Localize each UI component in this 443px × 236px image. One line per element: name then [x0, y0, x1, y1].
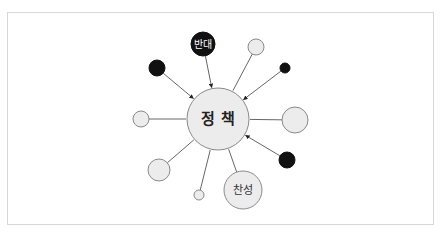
node-support: 찬성: [224, 171, 262, 209]
arrow-oppose: [205, 56, 211, 88]
arrow-black-top-left: [163, 73, 193, 98]
node-circle: [279, 152, 295, 168]
node-circle: [280, 63, 290, 73]
node-black-bottom-right: [279, 152, 295, 168]
node-circle: [148, 159, 170, 181]
node-light-bottom-left: [148, 159, 170, 181]
node-label: 반대: [194, 39, 212, 50]
node-light-small-bottom: [194, 190, 204, 200]
center-label: 정 책: [201, 110, 234, 128]
node-circle: [194, 190, 204, 200]
link-light-top-right: [233, 54, 252, 91]
node-light-left: [133, 111, 149, 127]
center-node-policy: 정 책: [187, 88, 249, 150]
node-label: 찬성: [233, 183, 253, 197]
node-circle: [248, 39, 264, 55]
node-black-small-right: [280, 63, 290, 73]
link-light-small-bottom: [200, 150, 210, 190]
node-light-top-right: [248, 39, 264, 55]
link-support: [229, 149, 237, 172]
policy-stakeholder-diagram: 반대찬성 정 책: [0, 0, 443, 236]
link-light-bottom-left: [167, 140, 193, 163]
node-black-top-left: [149, 60, 165, 76]
arrow-black-small-right: [243, 71, 281, 100]
node-oppose: 반대: [191, 32, 215, 56]
node-circle: [149, 60, 165, 76]
node-circle: [282, 107, 308, 133]
arrow-black-bottom-right: [246, 135, 281, 156]
node-light-right: [282, 107, 308, 133]
node-circle: [133, 111, 149, 127]
